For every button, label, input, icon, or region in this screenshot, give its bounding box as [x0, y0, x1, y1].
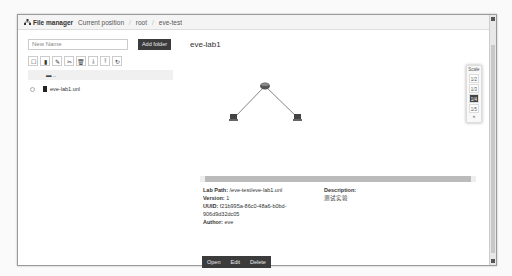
titlebar: File manager Current position / root / e…	[18, 15, 496, 30]
scale-option-1-2[interactable]: 1/2	[469, 74, 479, 83]
pc-right-icon[interactable]	[293, 114, 302, 121]
file-icon[interactable]: ▮	[40, 56, 50, 66]
refresh-icon[interactable]: ↻	[112, 56, 122, 66]
scroll-up-icon[interactable]	[491, 17, 495, 21]
edit-button[interactable]: Edit	[225, 256, 244, 268]
file-toolbar: ☐ ▮ ✎ ✂ 🗑 ⤓ ⤒ ↻	[28, 56, 122, 66]
folder-icon: ▬	[46, 72, 52, 78]
vertical-scrollbar[interactable]	[489, 15, 496, 265]
pc-left-icon[interactable]	[229, 114, 238, 121]
new-name-input[interactable]: New Name	[28, 39, 128, 50]
breadcrumb-eve-test[interactable]: eve-test	[159, 19, 182, 26]
path-label: Lab Path:	[203, 187, 228, 193]
cut-icon[interactable]: ✂	[64, 56, 74, 66]
parent-folder-label: ..	[53, 72, 56, 78]
parent-folder-row[interactable]: ▬ ..	[28, 70, 173, 80]
lab-title: eve-lab1	[190, 40, 221, 49]
breadcrumb-separator: /	[152, 19, 154, 26]
breadcrumb-label: Current position	[78, 19, 124, 26]
scrollbar-thumb[interactable]	[491, 45, 495, 253]
file-icon	[43, 86, 47, 92]
delete-icon[interactable]: 🗑	[76, 56, 86, 66]
select-all-icon[interactable]: ☐	[28, 56, 38, 66]
upload-icon[interactable]: ⤒	[100, 56, 110, 66]
scroll-down-icon[interactable]	[491, 259, 495, 263]
version-label: Version:	[203, 195, 225, 201]
lab-info: Lab Path: /eve-test/eve-lab1.unl Version…	[203, 186, 286, 226]
lab-preview: eve-lab1 Scale 1/2 1/3 1/4 1/5 «	[190, 30, 486, 265]
file-manager-window: File manager Current position / root / e…	[17, 14, 497, 266]
breadcrumb-separator: /	[129, 19, 131, 26]
author-label: Author:	[203, 219, 223, 225]
description-label: Description:	[324, 187, 356, 193]
download-icon[interactable]: ⤓	[88, 56, 98, 66]
router-icon[interactable]	[260, 83, 270, 90]
add-folder-button[interactable]: Add folder	[138, 39, 171, 50]
horizontal-scrollbar[interactable]	[200, 176, 476, 182]
scale-collapse-icon[interactable]: «	[467, 114, 481, 122]
file-row[interactable]: eve-lab1.unl	[30, 84, 80, 94]
file-name[interactable]: eve-lab1.unl	[50, 86, 80, 92]
scale-option-1-4[interactable]: 1/4	[469, 94, 479, 103]
lab-author: eve	[224, 219, 233, 225]
lab-actions: Open Edit Delete	[202, 256, 271, 268]
sitemap-icon	[24, 19, 31, 25]
file-select-radio[interactable]	[30, 87, 35, 92]
lab-path: /eve-test/eve-lab1.unl	[230, 187, 283, 193]
scale-panel: Scale 1/2 1/3 1/4 1/5 «	[466, 65, 482, 123]
file-manager-title: File manager	[24, 19, 73, 26]
lab-uuid-1: f21b995a-86c0-48a6-b0bd-	[220, 203, 287, 209]
scale-label: Scale	[467, 66, 481, 73]
edit-icon[interactable]: ✎	[52, 56, 62, 66]
description-text: 测试实验	[324, 194, 356, 202]
scale-option-1-5[interactable]: 1/5	[469, 104, 479, 113]
breadcrumb-root[interactable]: root	[136, 19, 147, 26]
lab-version: 1	[226, 195, 229, 201]
uuid-label: UUID:	[203, 203, 218, 209]
delete-button[interactable]: Delete	[245, 256, 271, 268]
open-button[interactable]: Open	[202, 256, 225, 268]
scale-option-1-3[interactable]: 1/3	[469, 84, 479, 93]
file-browser: New Name Add folder ☐ ▮ ✎ ✂ 🗑 ⤓ ⤒ ↻ ▬ ..…	[18, 30, 183, 265]
topology-canvas	[190, 52, 470, 190]
lab-uuid-2: 906d9d32dc05	[203, 211, 239, 217]
lab-description: Description: 测试实验	[324, 186, 356, 202]
